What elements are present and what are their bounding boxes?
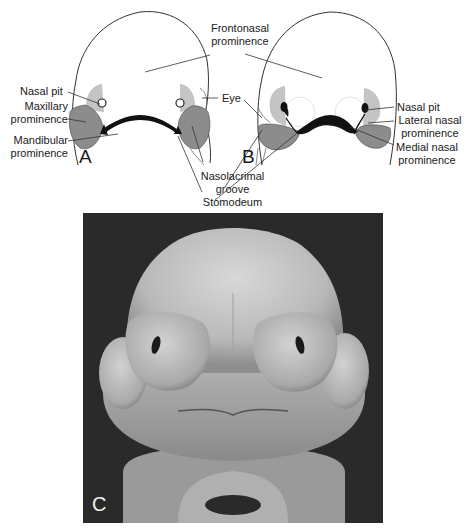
label-medial-line1: Medial nasal — [392, 141, 462, 154]
nasal-pit-b-right — [362, 103, 369, 113]
label-frontonasal-line1: Frontonasal — [200, 22, 280, 35]
label-eye: Eye — [222, 92, 241, 105]
label-mandibular-prominence: Mandibular prominence — [0, 134, 68, 159]
nasal-pit-left — [98, 99, 106, 107]
nasal-pit-right — [176, 99, 184, 107]
panel-c-micrograph: C — [83, 213, 383, 523]
label-maxillary-prominence: Maxillary prominence — [10, 100, 68, 125]
label-frontonasal-prominence: Frontonasal prominence — [200, 22, 280, 47]
panel-letter-c: C — [92, 493, 106, 516]
label-lateral-nasal-prominence: Lateral nasal prominence — [393, 114, 467, 139]
label-medial-nasal-prominence: Medial nasal prominence — [392, 141, 462, 166]
label-medial-line2: prominence — [392, 154, 462, 167]
label-nasolacrimal-groove: Nasolacrimal groove — [195, 170, 270, 195]
panel-a-head — [69, 12, 210, 165]
label-nasolacrimal-line2: groove — [195, 183, 270, 196]
label-lateral-line1: Lateral nasal — [393, 114, 467, 127]
label-nasal-pit-a: Nasal pit — [20, 85, 63, 98]
label-stomodeum: Stomodeum — [195, 196, 270, 209]
label-nasolacrimal-line1: Nasolacrimal — [195, 170, 270, 183]
label-frontonasal-line2: prominence — [200, 35, 280, 48]
panel-letter-a: A — [79, 147, 92, 166]
panel-letter-b: B — [242, 147, 255, 166]
embryo-face-sem — [83, 213, 383, 523]
label-mandibular-line1: Mandibular — [0, 134, 68, 147]
label-lateral-line2: prominence — [393, 127, 467, 140]
label-maxillary-line1: Maxillary — [10, 100, 68, 113]
label-maxillary-line2: prominence — [10, 113, 68, 126]
label-nasal-pit-b: Nasal pit — [397, 101, 440, 114]
label-mandibular-line2: prominence — [0, 147, 68, 160]
